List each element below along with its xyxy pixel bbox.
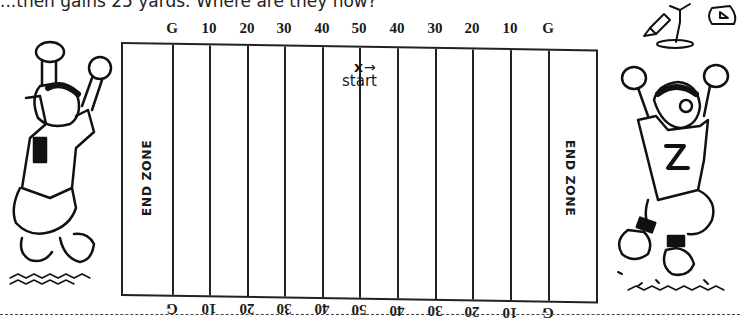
yardline-10-right [510, 50, 512, 300]
cheering-player-left-icon [0, 38, 118, 288]
top-label: 20 [465, 20, 480, 37]
yardline-30-right [435, 49, 437, 299]
bottom-label: 30 [428, 302, 443, 319]
yardline-10 [209, 45, 211, 295]
left-end-zone-label: END ZONE [139, 140, 154, 216]
question-text: ...then gains 25 yards. Where are they n… [0, 0, 377, 11]
yardline-goal-left [172, 45, 174, 295]
top-label: 50 [352, 20, 367, 37]
top-label: 30 [428, 20, 443, 37]
yardline-20-right [472, 50, 474, 300]
pencil-compass-icon [630, 0, 740, 50]
cheering-player-right-icon [608, 50, 740, 300]
yardline-40-right [397, 48, 399, 298]
yardline-20 [247, 46, 249, 296]
bottom-label: 40 [390, 302, 405, 319]
start-label: start [342, 72, 377, 90]
top-label: G [542, 20, 554, 37]
bottom-label: 10 [503, 304, 518, 321]
top-label: G [166, 20, 178, 37]
top-label: 10 [202, 20, 217, 37]
yardline-40 [322, 47, 324, 297]
bottom-label: G [542, 304, 554, 321]
right-end-zone-label: END ZONE [563, 140, 578, 216]
dashed-divider [0, 314, 740, 315]
yardline-30 [284, 47, 286, 297]
top-label: 20 [240, 20, 255, 37]
top-label: 40 [315, 20, 330, 37]
top-label: 10 [503, 20, 518, 37]
bottom-label: 20 [465, 303, 480, 320]
yardline-goal-right [548, 51, 550, 301]
bottom-label: 50 [352, 301, 367, 318]
top-label: 40 [390, 20, 405, 37]
top-label: 30 [277, 20, 292, 37]
